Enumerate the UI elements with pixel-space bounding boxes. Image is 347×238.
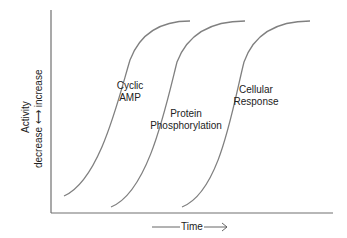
label-protein-phosphorylation: Protein Phosphorylation — [146, 108, 226, 132]
label-cellular-line2: Response — [226, 96, 286, 108]
label-cyclic-amp-line2: AMP — [110, 92, 150, 104]
y-axis-title: Activity — [20, 101, 32, 133]
label-cellular-line1: Cellular — [226, 84, 286, 96]
label-cellular-response: Cellular Response — [226, 84, 286, 108]
label-cyclic-amp-line1: Cyclic — [110, 80, 150, 92]
y-axis-subtitle: decrease ⟷ increase — [33, 70, 45, 169]
label-protein-line2: Phosphorylation — [146, 120, 226, 132]
label-cyclic-amp: Cyclic AMP — [110, 80, 150, 104]
label-protein-line1: Protein — [146, 108, 226, 120]
x-axis-title: Time — [181, 221, 203, 233]
